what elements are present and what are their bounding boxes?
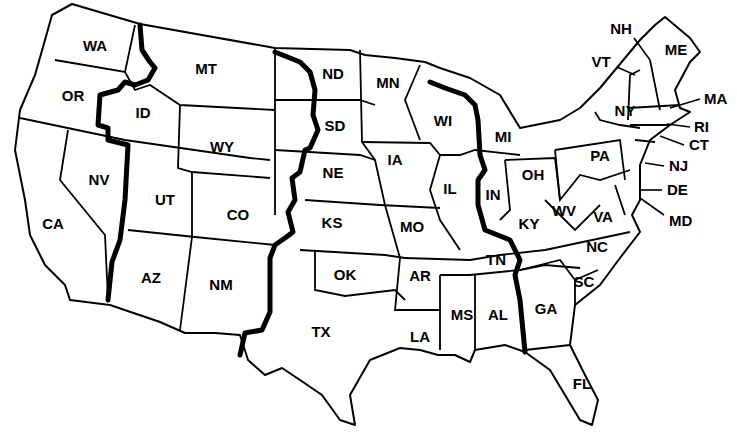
label-ga: GA	[535, 300, 558, 317]
label-wa: WA	[83, 37, 107, 54]
label-id: ID	[136, 104, 151, 121]
label-il: IL	[443, 180, 456, 197]
us-time-zone-map: WA OR CA ID NV MT WY UT CO AZ NM ND SD N…	[0, 0, 737, 446]
label-ri: RI	[694, 118, 709, 135]
label-ms: MS	[451, 306, 474, 323]
label-in: IN	[486, 186, 501, 203]
label-oh: OH	[522, 166, 545, 183]
label-nv: NV	[89, 171, 110, 188]
label-me: ME	[665, 41, 688, 58]
label-va: VA	[593, 208, 613, 225]
label-vt: VT	[591, 53, 610, 70]
label-wv: WV	[552, 202, 576, 219]
label-nc: NC	[586, 238, 608, 255]
label-ar: AR	[409, 267, 431, 284]
label-nh: NH	[610, 20, 632, 37]
label-mo: MO	[400, 218, 424, 235]
map-svg: WA OR CA ID NV MT WY UT CO AZ NM ND SD N…	[0, 0, 737, 446]
label-ca: CA	[42, 215, 64, 232]
label-ny: NY	[615, 102, 636, 119]
label-nm: NM	[209, 276, 232, 293]
label-co: CO	[227, 206, 250, 223]
label-or: OR	[62, 87, 85, 104]
label-ct: CT	[689, 136, 709, 153]
label-ne: NE	[323, 164, 344, 181]
label-ia: IA	[388, 151, 403, 168]
label-mn: MN	[376, 74, 399, 91]
label-tn: TN	[486, 251, 506, 268]
label-az: AZ	[141, 269, 161, 286]
label-ut: UT	[155, 191, 175, 208]
label-la: LA	[410, 328, 430, 345]
label-de: DE	[667, 181, 688, 198]
label-mt: MT	[195, 60, 217, 77]
label-al: AL	[488, 306, 508, 323]
label-mi: MI	[495, 128, 512, 145]
label-sd: SD	[325, 117, 346, 134]
label-ok: OK	[334, 266, 357, 283]
label-tx: TX	[311, 323, 330, 340]
label-pa: PA	[590, 147, 610, 164]
label-ma: MA	[704, 90, 727, 107]
label-ky: KY	[519, 215, 540, 232]
label-fl: FL	[573, 375, 591, 392]
label-nd: ND	[322, 65, 344, 82]
label-sc: SC	[574, 273, 595, 290]
label-ks: KS	[322, 214, 343, 231]
label-wy: WY	[210, 138, 234, 155]
label-nj: NJ	[669, 157, 688, 174]
label-wi: WI	[434, 112, 452, 129]
label-md: MD	[669, 212, 692, 229]
